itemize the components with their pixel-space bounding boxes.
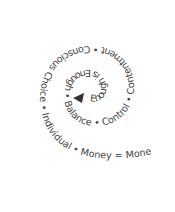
center-arrow-icon <box>73 93 84 103</box>
spiral-text: Enough is Enough • Balance • Control • C… <box>0 0 152 161</box>
spiral-diagram: Enough is Enough • Balance • Control • C… <box>0 0 175 212</box>
spiral-text-content: Enough is Enough • Balance • Control • C… <box>0 0 152 161</box>
